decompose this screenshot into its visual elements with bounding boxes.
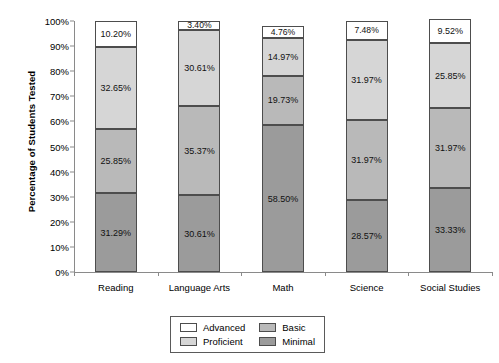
bar-segment-advanced[interactable]: 7.48%: [346, 21, 388, 40]
bar-segment-minimal[interactable]: 58.50%: [262, 125, 304, 272]
y-tick-label: 70%: [29, 91, 69, 102]
legend-label: Advanced: [203, 322, 245, 333]
y-tick-mark: [70, 221, 74, 222]
y-tick-mark: [70, 71, 74, 72]
y-tick-label: 30%: [29, 191, 69, 202]
bar-segment-value: 4.76%: [263, 27, 303, 37]
legend-item-proficient[interactable]: Proficient: [180, 336, 245, 347]
bar-segment-minimal[interactable]: 28.57%: [346, 200, 388, 272]
y-tick-label: 10%: [29, 241, 69, 252]
y-tick-label: 100%: [29, 16, 69, 27]
bar-segment-value: 30.61%: [179, 229, 219, 239]
x-tick-mark: [408, 272, 409, 276]
x-tick-mark: [74, 272, 75, 276]
legend-item-basic[interactable]: Basic: [259, 322, 315, 333]
bar-segment-value: 14.97%: [263, 52, 303, 62]
bar-reading[interactable]: 31.29%25.85%32.65%10.20%: [95, 21, 137, 272]
y-tick-mark: [70, 171, 74, 172]
bar-segment-minimal[interactable]: 31.29%: [95, 193, 137, 272]
bar-segment-minimal[interactable]: 30.61%: [178, 195, 220, 272]
y-tick-mark: [70, 96, 74, 97]
bar-segment-value: 33.33%: [430, 225, 470, 235]
y-tick-mark: [70, 246, 74, 247]
legend-swatch-minimal: [259, 337, 276, 346]
x-tick-label-math: Math: [272, 282, 293, 293]
bar-segment-value: 31.97%: [430, 143, 470, 153]
y-tick-mark: [70, 196, 74, 197]
x-tick-label-social-studies: Social Studies: [420, 282, 480, 293]
bar-segment-value: 35.37%: [179, 146, 219, 156]
bar-segment-value: 7.48%: [347, 25, 387, 35]
bar-segment-proficient[interactable]: 31.97%: [346, 40, 388, 120]
bar-segment-minimal[interactable]: 33.33%: [429, 188, 471, 272]
bar-segment-value: 31.29%: [96, 228, 136, 238]
y-tick-label: 90%: [29, 41, 69, 52]
y-tick-label: 40%: [29, 166, 69, 177]
bar-language-arts[interactable]: 30.61%35.37%30.61%3.40%: [178, 21, 220, 272]
bar-segment-value: 58.50%: [263, 194, 303, 204]
stacked-bar-chart: Percentage of Students Tested 0%10%20%30…: [0, 0, 499, 363]
bar-social-studies[interactable]: 33.33%31.97%25.85%9.52%: [429, 21, 471, 272]
y-tick-mark: [70, 21, 74, 22]
legend-label: Minimal: [282, 336, 315, 347]
x-tick-mark: [158, 272, 159, 276]
y-tick-label: 50%: [29, 141, 69, 152]
bar-segment-value: 32.65%: [96, 83, 136, 93]
bar-science[interactable]: 28.57%31.97%31.97%7.48%: [346, 21, 388, 272]
bar-segment-value: 25.85%: [96, 156, 136, 166]
bar-segment-value: 30.61%: [179, 63, 219, 73]
bar-segment-value: 28.57%: [347, 231, 387, 241]
bar-segment-proficient[interactable]: 30.61%: [178, 30, 220, 107]
x-tick-label-science: Science: [350, 282, 384, 293]
bar-segment-basic[interactable]: 35.37%: [178, 106, 220, 195]
y-tick-label: 20%: [29, 216, 69, 227]
y-tick-mark: [70, 46, 74, 47]
bar-segment-value: 31.97%: [347, 75, 387, 85]
bar-segment-value: 3.40%: [179, 20, 219, 30]
bar-segment-advanced[interactable]: 9.52%: [429, 19, 471, 43]
bar-segment-proficient[interactable]: 25.85%: [429, 43, 471, 108]
legend-swatch-basic: [259, 323, 276, 332]
legend-item-minimal[interactable]: Minimal: [259, 336, 315, 347]
y-tick-label: 80%: [29, 66, 69, 77]
legend-swatch-proficient: [180, 337, 197, 346]
legend-label: Basic: [282, 322, 305, 333]
bar-segment-basic[interactable]: 31.97%: [429, 108, 471, 188]
bar-segment-advanced[interactable]: 3.40%: [178, 21, 220, 30]
bar-segment-basic[interactable]: 19.73%: [262, 76, 304, 126]
x-axis-line: [74, 272, 493, 273]
bar-segment-value: 25.85%: [430, 71, 470, 81]
bar-segment-basic[interactable]: 25.85%: [95, 129, 137, 194]
bar-segment-value: 9.52%: [430, 26, 470, 36]
chart-legend: AdvancedBasicProficientMinimal: [170, 316, 325, 353]
legend-label: Proficient: [203, 336, 243, 347]
legend-item-advanced[interactable]: Advanced: [180, 322, 245, 333]
bar-segment-basic[interactable]: 31.97%: [346, 120, 388, 200]
bar-segment-value: 10.20%: [96, 29, 136, 39]
y-tick-label: 60%: [29, 116, 69, 127]
x-tick-label-reading: Reading: [98, 282, 133, 293]
bar-segment-advanced[interactable]: 4.76%: [262, 26, 304, 38]
bar-segment-proficient[interactable]: 14.97%: [262, 38, 304, 76]
x-tick-label-language-arts: Language Arts: [169, 282, 230, 293]
bar-segment-advanced[interactable]: 10.20%: [95, 21, 137, 47]
y-tick-mark: [70, 146, 74, 147]
x-tick-mark: [325, 272, 326, 276]
bar-segment-value: 31.97%: [347, 155, 387, 165]
legend-swatch-advanced: [180, 323, 197, 332]
plot-area: 0%10%20%30%40%50%60%70%80%90%100%31.29%2…: [74, 21, 492, 272]
y-tick-mark: [70, 121, 74, 122]
bar-segment-proficient[interactable]: 32.65%: [95, 47, 137, 129]
bar-segment-value: 19.73%: [263, 95, 303, 105]
bar-math[interactable]: 58.50%19.73%14.97%4.76%: [262, 21, 304, 272]
y-tick-label: 0%: [29, 267, 69, 278]
x-tick-mark: [492, 272, 493, 276]
x-tick-mark: [241, 272, 242, 276]
